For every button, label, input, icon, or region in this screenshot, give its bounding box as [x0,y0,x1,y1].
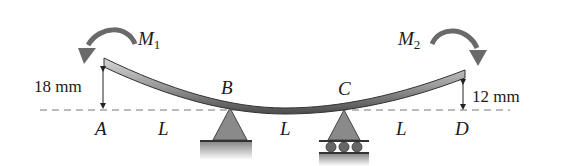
moment-m2-label: M2 [397,28,420,52]
moment-m2-arrow [432,31,487,66]
deflected-beam [104,58,465,114]
beam-diagram: 18 mm 12 mm M1 M2 A B C D L L L [0,0,561,166]
point-label-a: A [93,118,107,139]
span-label-cd: L [395,118,407,139]
pin-support-b [200,108,252,160]
span-label-ab: L [157,118,169,139]
point-label-c: C [338,78,351,99]
point-label-d: D [454,118,469,139]
moment-m1-label: M1 [137,28,160,52]
dimension-label-18mm: 18 mm [34,77,82,96]
span-label-bc: L [279,118,291,139]
roller-support-c [319,110,369,166]
dimension-label-12mm: 12 mm [472,87,520,106]
point-label-b: B [221,77,233,98]
